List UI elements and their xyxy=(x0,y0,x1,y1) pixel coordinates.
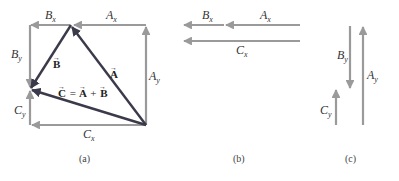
caption-b: (b) xyxy=(233,153,245,165)
label-cx-b: Cx xyxy=(236,43,248,59)
label-ax-b: Ax xyxy=(259,8,271,24)
vector-addition-diagram: Bx Ax By Ay Cy Cx B → A → C = A + B → → … xyxy=(0,0,399,181)
label-by-c: By xyxy=(337,48,348,64)
svg-text:→: → xyxy=(58,83,65,91)
label-cy-c: Cy xyxy=(320,103,332,119)
label-vec-a: A → xyxy=(110,64,118,80)
panel-b: Bx Ax Cx (b) xyxy=(184,8,300,165)
panel-a: Bx Ax By Ay Cy Cx B → A → C = A + B → → … xyxy=(11,8,160,165)
svg-text:→: → xyxy=(99,83,106,91)
label-bx-b: Bx xyxy=(202,8,213,24)
caption-c: (c) xyxy=(345,153,356,165)
label-ay-c: Ay xyxy=(366,68,378,84)
panel-c: By Ay Cy (c) xyxy=(320,26,378,165)
label-bx: Bx xyxy=(45,8,56,24)
svg-text:→: → xyxy=(53,54,60,62)
label-ay: Ay xyxy=(148,69,160,85)
label-ax: Ax xyxy=(105,8,117,24)
label-cy: Cy xyxy=(14,103,26,119)
caption-a: (a) xyxy=(79,153,90,165)
label-by: By xyxy=(11,47,22,63)
svg-text:→: → xyxy=(79,83,86,91)
label-vec-c-equation: C = A + B → → → xyxy=(58,83,108,99)
vector-b-arrow xyxy=(31,25,71,88)
vector-a-arrow xyxy=(72,27,146,125)
label-cx: Cx xyxy=(83,127,95,143)
label-vec-b: B → xyxy=(53,54,61,70)
svg-text:→: → xyxy=(110,64,117,72)
